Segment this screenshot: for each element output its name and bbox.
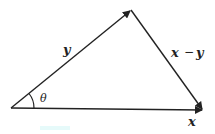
- label-x: x: [187, 114, 196, 129]
- vector-y: [11, 11, 130, 108]
- vector-x: [11, 108, 202, 110]
- theta-arc: [29, 94, 34, 109]
- label-x-minus-y-x: x: [170, 45, 179, 60]
- highlight-patch: [40, 126, 70, 130]
- label-x-minus-y-y: y: [195, 45, 205, 60]
- label-x-minus-y-operator: −: [184, 45, 194, 59]
- vector-triangle-diagram: y θ x x − y: [0, 0, 215, 134]
- vector-x-minus-y: [131, 10, 202, 109]
- label-theta: θ: [40, 92, 47, 105]
- label-y: y: [62, 42, 72, 57]
